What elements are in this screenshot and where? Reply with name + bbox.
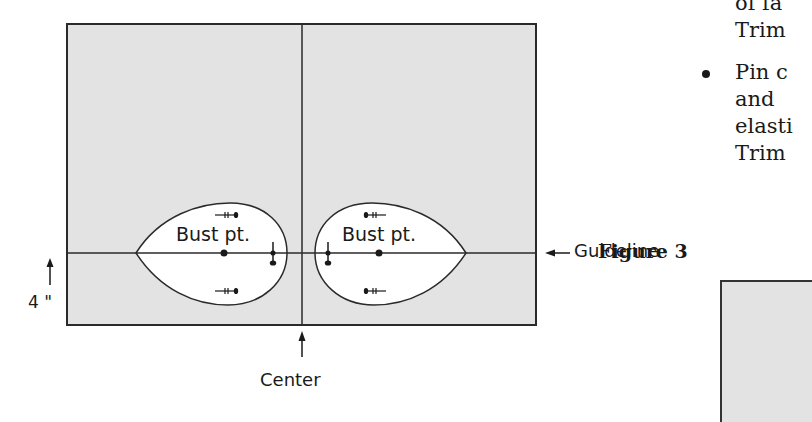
- figure-3-fabric-preview: [720, 280, 812, 422]
- measurement-label: 4 ": [28, 292, 52, 312]
- body-text-line: Trim: [735, 140, 786, 167]
- center-label: Center: [260, 369, 321, 390]
- arrow-up-icon-center: [299, 331, 306, 357]
- bust-point-label-right: Bust pt.: [342, 223, 416, 245]
- bust-point-right: [376, 250, 383, 257]
- body-text-line: Trim: [735, 17, 786, 44]
- bust-point-label-left: Bust pt.: [176, 223, 250, 245]
- bullet-icon: [702, 70, 710, 78]
- arrow-left-icon-guideline: [545, 250, 570, 257]
- body-text-line: elasti: [735, 113, 793, 140]
- figure-3-title: Figure 3: [598, 240, 688, 262]
- body-text-line: of fa: [735, 0, 782, 17]
- arrow-up-icon-measure: [47, 258, 54, 285]
- bust-point-left: [221, 250, 228, 257]
- body-text-line: Pin c: [735, 59, 788, 86]
- body-text-line: and: [735, 86, 775, 113]
